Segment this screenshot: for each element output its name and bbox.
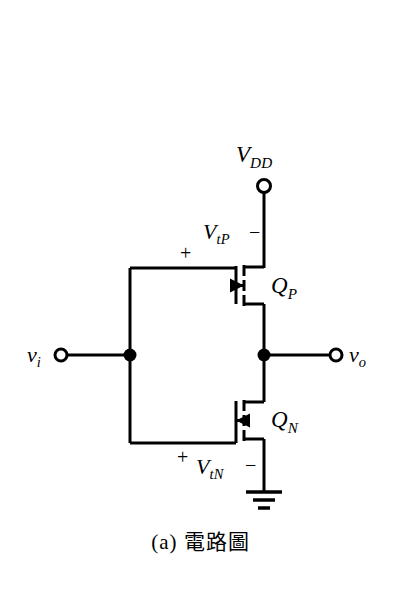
vi-terminal-circle — [55, 349, 67, 361]
vtn-label: VtN — [196, 456, 224, 482]
vi-label: vi — [27, 344, 41, 370]
circuit-figure: VDD vi vo QP QN VtP + − VtN + − (a) 電路圖 — [0, 0, 401, 608]
vdd-label: VDD — [236, 143, 272, 170]
vtn-minus-sign: − — [245, 455, 256, 475]
vo-terminal-circle — [330, 349, 342, 361]
vo-label: vo — [349, 344, 366, 370]
vtp-plus-sign: + — [180, 243, 191, 263]
pmos-device-label: QP — [271, 274, 297, 301]
vtp-minus-sign: − — [249, 222, 260, 242]
vtp-label: VtP — [203, 221, 230, 247]
vdd-terminal-circle — [258, 180, 271, 193]
vtn-plus-sign: + — [177, 447, 188, 467]
input-junction-dot — [124, 349, 137, 362]
output-junction-dot — [258, 349, 271, 362]
figure-caption: (a) 電路圖 — [0, 525, 401, 555]
circuit-schematic-svg — [0, 0, 401, 608]
nmos-device-label: QN — [271, 408, 298, 435]
